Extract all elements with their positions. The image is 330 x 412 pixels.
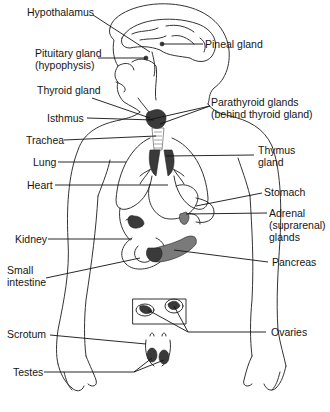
left-hand: [58, 356, 96, 391]
leader-stomach: [196, 193, 262, 206]
label-isthmus: Isthmus: [47, 112, 84, 124]
lung-right: [172, 138, 208, 209]
label-text: intestine: [7, 276, 46, 288]
leader-small-intestine: [46, 258, 140, 278]
label-text: Trachea: [26, 134, 64, 146]
label-text: (hypophysis): [35, 59, 102, 71]
leader-thyroid: [92, 98, 150, 118]
thyroid-gland-shape: [146, 109, 166, 128]
label-text: Hypothalamus: [27, 6, 94, 18]
label-trachea: Trachea: [26, 134, 64, 146]
label-text: Thyroid gland: [37, 84, 101, 96]
label-adrenal-glands: Adrenal (suprarenal) glands: [269, 207, 326, 243]
label-pineal-gland: Pineal gland: [205, 38, 263, 50]
label-thymus-gland: Thymus gland: [258, 144, 295, 168]
label-text: Pituitary gland: [35, 47, 102, 59]
testis-right-shape: [159, 350, 169, 364]
label-stomach: Stomach: [264, 186, 305, 198]
label-small-intestine: Small intestine: [7, 264, 46, 288]
label-text: Parathyroid glands: [211, 96, 313, 108]
testis-left-shape: [147, 348, 157, 362]
endocrine-diagram: Hypothalamus Pituitary gland (hypophysis…: [0, 0, 330, 412]
leader-pancreas: [174, 250, 268, 262]
ovary-right-shape: [168, 301, 180, 309]
kidney-left-shape: [128, 216, 144, 229]
label-text: Pineal gland: [205, 38, 263, 50]
lung-left: [116, 138, 152, 209]
label-hypothalamus: Hypothalamus: [27, 6, 94, 18]
leader-trachea: [64, 136, 156, 140]
label-text: gland: [258, 156, 295, 168]
leader-testes-2: [134, 358, 152, 372]
label-text: Adrenal: [269, 207, 326, 219]
leader-scrotum: [50, 335, 146, 344]
label-text: Testes: [13, 366, 43, 378]
label-text: (behind thyroid gland): [211, 108, 313, 120]
label-text: (suprarenal): [269, 219, 326, 231]
label-testes: Testes: [13, 366, 43, 378]
thymus-shape: [149, 150, 174, 176]
leader-thymus: [166, 155, 254, 156]
label-text: Thymus: [258, 144, 295, 156]
label-pituitary-gland: Pituitary gland (hypophysis): [35, 47, 102, 71]
label-thyroid-gland: Thyroid gland: [37, 84, 101, 96]
ovary-left-shape: [140, 305, 152, 313]
label-kidney: Kidney: [15, 233, 47, 245]
leader-adrenal: [186, 213, 267, 214]
label-pancreas: Pancreas: [272, 256, 316, 268]
label-text: Heart: [27, 179, 53, 191]
label-ovaries: Ovaries: [271, 326, 307, 338]
leader-testes-3: [134, 360, 164, 372]
label-parathyroid-glands: Parathyroid glands (behind thyroid gland…: [211, 96, 313, 120]
label-lung: Lung: [33, 156, 56, 168]
label-text: Pancreas: [272, 256, 316, 268]
leader-parathyroid-2: [160, 106, 210, 124]
label-text: Lung: [33, 156, 56, 168]
label-heart: Heart: [27, 179, 53, 191]
trachea-shape: [152, 128, 164, 150]
label-text: Isthmus: [47, 112, 84, 124]
label-text: Small: [7, 264, 46, 276]
label-text: glands: [269, 231, 326, 243]
pancreas-head-shape: [146, 248, 162, 262]
label-text: Scrotum: [7, 328, 46, 340]
label-text: Stomach: [264, 186, 305, 198]
label-text: Kidney: [15, 233, 47, 245]
label-text: Ovaries: [271, 326, 307, 338]
label-scrotum: Scrotum: [7, 328, 46, 340]
